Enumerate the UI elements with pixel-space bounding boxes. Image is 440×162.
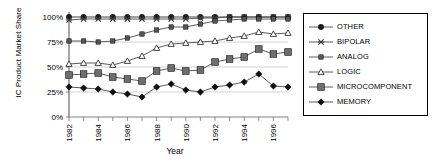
marker-square-small: [257, 17, 261, 21]
y-tick-label: 75%: [47, 38, 63, 47]
marker-square-large: [226, 56, 233, 63]
marker-diamond: [226, 82, 232, 88]
marker-square-small: [111, 39, 115, 43]
marker-square-small: [154, 28, 158, 32]
legend-item-bipolar[interactable]: BIPOLAR: [304, 34, 427, 49]
x-tick-label: 1994: [240, 123, 249, 141]
marker-square-small: [140, 32, 144, 36]
marker-square-large: [110, 74, 117, 81]
marker-diamond: [80, 85, 86, 91]
legend-item-label: BIPOLAR: [337, 37, 370, 46]
legend-item-microcomponent[interactable]: MICROCOMPONENT: [304, 79, 427, 94]
marker-square-large: [241, 54, 248, 61]
marker-square-small: [286, 17, 290, 21]
plot-area: 0%25%50%75%100%1982198419861988199019921…: [0, 0, 292, 146]
chart-panel: IC Product Market Share 0%25%50%75%100%1…: [0, 0, 292, 162]
marker-diamond: [153, 84, 159, 90]
marker-triangle: [139, 53, 145, 59]
marker-diamond: [197, 89, 203, 95]
marker-square-small: [198, 22, 202, 26]
y-tick-label: 25%: [47, 88, 63, 97]
legend-item-other[interactable]: OTHER: [304, 19, 427, 34]
legend-item-label: MEMORY: [337, 97, 371, 106]
marker-square-small: [271, 17, 275, 21]
legend: OTHERBIPOLARANALOGLOGICMICROCOMPONENTMEM…: [303, 13, 428, 116]
series-line: [69, 32, 288, 65]
marker-square-small: [96, 40, 100, 44]
x-tick-label: 1988: [153, 123, 162, 141]
marker-square-small: [319, 54, 323, 58]
x-tick-label: 1990: [182, 123, 191, 141]
marker-square-small: [242, 17, 246, 21]
legend-item-analog[interactable]: ANALOG: [304, 49, 427, 64]
marker-triangle: [256, 29, 262, 35]
y-tick-label: 100%: [43, 13, 63, 22]
marker-square-small: [67, 39, 71, 43]
legend-marker-open-triangle-icon: [308, 65, 334, 79]
x-tick-label: 1982: [65, 123, 74, 141]
legend-key-swatch: [308, 35, 334, 49]
series-line: [69, 74, 288, 97]
legend-marker-x-cross-icon: [308, 35, 334, 49]
marker-diamond: [285, 84, 291, 90]
series-line: [69, 19, 288, 42]
marker-diamond: [212, 84, 218, 90]
marker-square-large: [66, 72, 73, 79]
marker-diamond: [241, 79, 247, 85]
legend-marker-small-filled-square-icon: [308, 50, 334, 64]
legend-item-label: MICROCOMPONENT: [337, 82, 412, 91]
marker-square-large: [168, 65, 175, 72]
marker-square-large: [80, 71, 87, 78]
legend-key-swatch: [308, 20, 334, 34]
marker-square-large: [270, 51, 277, 58]
marker-triangle: [285, 30, 291, 36]
marker-square-large: [212, 59, 219, 66]
marker-square-large: [285, 49, 292, 56]
marker-diamond: [139, 94, 145, 100]
x-axis-title: Year: [60, 146, 290, 156]
marker-square-large: [318, 83, 325, 90]
x-tick-label: 1986: [123, 123, 132, 141]
marker-square-small: [81, 39, 85, 43]
marker-square-small: [169, 25, 173, 29]
legend-item-label: LOGIC: [337, 67, 361, 76]
legend-marker-filled-circle-icon: [308, 20, 334, 34]
marker-square-large: [183, 68, 190, 75]
marker-square-large: [124, 76, 131, 83]
legend-key-swatch: [308, 50, 334, 64]
marker-square-small: [213, 19, 217, 23]
x-tick-label: 1996: [269, 123, 278, 141]
legend-key-swatch: [308, 65, 334, 79]
marker-square-small: [125, 36, 129, 40]
marker-diamond: [66, 84, 72, 90]
marker-square-small: [184, 25, 188, 29]
marker-diamond: [318, 98, 324, 104]
marker-diamond: [110, 89, 116, 95]
legend-item-label: ANALOG: [337, 52, 369, 61]
legend-key-swatch: [308, 95, 334, 109]
marker-square-large: [139, 78, 146, 85]
legend-key-swatch: [308, 80, 334, 94]
y-tick-label: 0%: [51, 113, 63, 122]
marker-diamond: [95, 86, 101, 92]
marker-square-large: [95, 70, 102, 77]
marker-square-small: [227, 18, 231, 22]
chart-screenshot: IC Product Market Share 0%25%50%75%100%1…: [0, 0, 440, 162]
legend-item-memory[interactable]: MEMORY: [304, 94, 427, 109]
marker-circle: [198, 14, 203, 19]
x-tick-label: 1992: [211, 123, 220, 141]
legend-marker-filled-diamond-icon: [308, 95, 334, 109]
legend-marker-large-filled-square-icon: [308, 80, 334, 94]
marker-square-large: [256, 46, 263, 53]
x-tick-label: 1984: [94, 123, 103, 141]
marker-diamond: [168, 81, 174, 87]
marker-square-large: [197, 67, 204, 74]
legend-item-logic[interactable]: LOGIC: [304, 64, 427, 79]
marker-square-large: [153, 68, 160, 75]
marker-circle: [318, 24, 323, 29]
legend-item-label: OTHER: [337, 22, 364, 31]
y-tick-label: 50%: [47, 63, 63, 72]
